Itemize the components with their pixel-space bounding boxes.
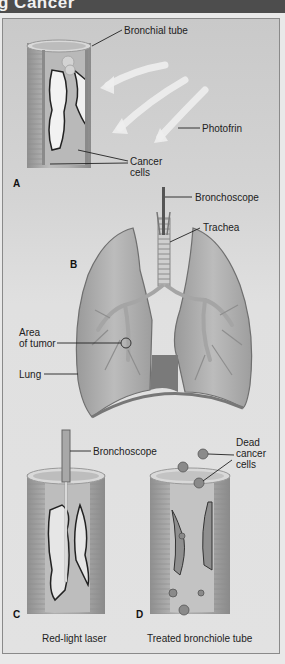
bronchial-tube-a (27, 40, 91, 168)
panel-letter-b: B (70, 259, 77, 270)
panel-letter-a: A (13, 178, 20, 189)
illustration (0, 0, 285, 664)
label-dead-cancer-cells-line1: Dead (236, 437, 260, 448)
panel-letter-d: D (136, 609, 143, 620)
panel-letter-c: C (13, 609, 20, 620)
label-lung: Lung (19, 369, 41, 380)
label-photofrin: Photofrin (202, 123, 242, 134)
label-bronchoscope-b: Bronchoscope (195, 192, 259, 203)
bronchial-tube-c (27, 430, 105, 614)
label-bronchoscope-c: Bronchoscope (93, 446, 157, 457)
label-cancer-cells-line2: cells (130, 167, 150, 178)
arrow-heads (100, 76, 168, 143)
label-area-of-tumor-line2: of tumor (19, 338, 56, 349)
label-bronchial-tube: Bronchial tube (124, 25, 188, 36)
bronchial-tube-d (150, 449, 230, 615)
label-dead-cancer-cells-line2: cancer (236, 448, 266, 459)
label-trachea: Trachea (203, 222, 239, 233)
label-dead-cancer-cells-line3: cells (236, 459, 256, 470)
caption-red-light-laser: Red-light laser (42, 633, 106, 644)
label-cancer-cells-line1: Cancer (130, 156, 162, 167)
caption-treated-bronchiole-tube: Treated bronchiole tube (147, 633, 252, 644)
label-area-of-tumor-line1: Area (19, 327, 40, 338)
